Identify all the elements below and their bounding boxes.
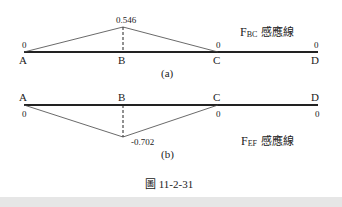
bottom-bar: [0, 197, 342, 207]
value-a-a: 0: [22, 40, 27, 50]
value-c-a: 0: [216, 40, 221, 50]
influence-line-a: [24, 27, 218, 52]
sublabel-a: (a): [161, 67, 174, 80]
point-label-d: D: [311, 54, 319, 66]
point-label-c: C: [213, 54, 220, 66]
value-a-b: 0: [22, 109, 27, 119]
value-c-b: 0: [216, 109, 221, 119]
figure-caption: 圖 11-2-31: [145, 178, 193, 190]
point-label-b: B: [118, 54, 125, 66]
point-label-b: B: [118, 91, 125, 103]
point-label-d: D: [311, 91, 319, 103]
influence-line-diagram: 0 0.546 0 0 A B C D (a) FBC 感應線 A B C D …: [0, 0, 342, 207]
point-label-c: C: [213, 91, 220, 103]
diagram-b: A B C D 0 -0.702 0 0 (b) FEF 感應線: [19, 91, 320, 161]
value-b-a: 0.546: [116, 15, 137, 25]
diagram-a: 0 0.546 0 0 A B C D (a) FBC 感應線: [19, 15, 319, 80]
value-d-a: 0: [314, 40, 319, 50]
value-b-b: -0.702: [131, 137, 154, 147]
point-label-a: A: [19, 54, 27, 66]
value-d-b: 0: [315, 109, 320, 119]
influence-line-b: [24, 105, 218, 137]
point-label-a: A: [19, 91, 27, 103]
sublabel-b: (b): [161, 148, 174, 161]
title-b: FEF 感應線: [241, 134, 294, 148]
title-a: FBC 感應線: [240, 25, 294, 39]
